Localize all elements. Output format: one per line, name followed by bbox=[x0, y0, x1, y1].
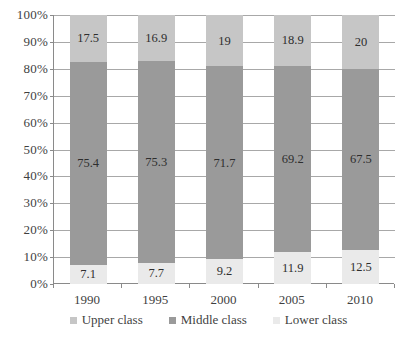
bar-column: 9.271.719 bbox=[206, 15, 243, 284]
bar-value-label: 75.3 bbox=[145, 156, 167, 169]
bar-segment: 11.9 bbox=[274, 252, 311, 284]
x-axis-tick-label: 2000 bbox=[194, 292, 254, 308]
bar-segment: 16.9 bbox=[138, 15, 175, 60]
bar-segment: 9.2 bbox=[206, 259, 243, 284]
legend-swatch-icon bbox=[273, 317, 280, 324]
chart-legend: Upper classMiddle classLower class bbox=[0, 312, 417, 328]
bar-segment: 18.9 bbox=[274, 15, 311, 66]
bar-segment: 75.3 bbox=[138, 61, 175, 264]
y-axis-tick-label: 60% bbox=[24, 115, 48, 131]
x-axis-tick bbox=[258, 284, 259, 288]
y-axis-tick-label: 70% bbox=[24, 88, 48, 104]
bar-segment: 17.5 bbox=[70, 15, 107, 62]
y-axis-tick-label: 40% bbox=[24, 168, 48, 184]
x-axis-tick-label: 2010 bbox=[330, 292, 390, 308]
bar-value-label: 11.9 bbox=[282, 262, 303, 275]
x-axis-tick bbox=[189, 284, 190, 288]
legend-item[interactable]: Upper class bbox=[70, 312, 143, 328]
bar-segment: 12.5 bbox=[342, 250, 379, 284]
bar-column: 11.969.218.9 bbox=[274, 15, 311, 284]
y-axis-tick-label: 80% bbox=[24, 61, 48, 77]
legend-swatch-icon bbox=[169, 317, 176, 324]
plot-area: 0%10%20%30%40%50%60%70%80%90%100% 7.175.… bbox=[53, 15, 394, 284]
bar-value-label: 17.5 bbox=[77, 32, 99, 45]
y-axis-tick-label: 90% bbox=[24, 34, 48, 50]
bar-value-label: 20 bbox=[355, 36, 368, 49]
bar-value-label: 75.4 bbox=[77, 157, 99, 170]
x-axis-tick bbox=[326, 284, 327, 288]
bar-segment: 71.7 bbox=[206, 66, 243, 259]
legend-label: Lower class bbox=[285, 312, 347, 328]
x-axis-tick-label: 1990 bbox=[57, 292, 117, 308]
bar-value-label: 7.1 bbox=[80, 268, 96, 281]
bar-segment: 75.4 bbox=[70, 62, 107, 265]
y-axis-tick-label: 20% bbox=[24, 222, 48, 238]
y-axis-tick-label: 0% bbox=[30, 276, 48, 292]
x-axis-tick bbox=[394, 284, 395, 288]
y-axis-tick-label: 50% bbox=[24, 142, 48, 158]
bar-segment: 67.5 bbox=[342, 69, 379, 251]
x-axis-tick bbox=[121, 284, 122, 288]
legend-item[interactable]: Lower class bbox=[273, 312, 347, 328]
legend-label: Middle class bbox=[181, 312, 247, 328]
bar-segment: 7.7 bbox=[138, 263, 175, 284]
stacked-bar-chart: 0%10%20%30%40%50%60%70%80%90%100% 7.175.… bbox=[0, 0, 417, 340]
bar-value-label: 16.9 bbox=[145, 32, 167, 45]
bar-value-label: 12.5 bbox=[350, 261, 372, 274]
x-axis-tick-label: 2005 bbox=[262, 292, 322, 308]
x-axis-tick bbox=[53, 284, 54, 288]
bar-column: 7.775.316.9 bbox=[138, 15, 175, 284]
x-axis-tick-label: 1995 bbox=[125, 292, 185, 308]
bar-value-label: 67.5 bbox=[350, 153, 372, 166]
bar-segment: 7.1 bbox=[70, 265, 107, 284]
bar-segment: 69.2 bbox=[274, 66, 311, 252]
bar-column: 12.567.520 bbox=[342, 15, 379, 284]
bar-column: 7.175.417.5 bbox=[70, 15, 107, 284]
bar-segment: 20 bbox=[342, 15, 379, 69]
bar-value-label: 71.7 bbox=[214, 157, 236, 170]
bar-value-label: 7.7 bbox=[148, 267, 164, 280]
legend-swatch-icon bbox=[70, 317, 77, 324]
bar-value-label: 18.9 bbox=[282, 34, 304, 47]
bars-layer: 7.175.417.57.775.316.99.271.71911.969.21… bbox=[54, 15, 395, 284]
bar-segment: 19 bbox=[206, 15, 243, 66]
y-axis-tick-label: 30% bbox=[24, 195, 48, 211]
y-axis-tick-label: 100% bbox=[17, 7, 48, 23]
legend-label: Upper class bbox=[82, 312, 143, 328]
bar-value-label: 69.2 bbox=[282, 153, 304, 166]
y-axis-tick-label: 10% bbox=[24, 249, 48, 265]
bar-value-label: 19 bbox=[218, 35, 231, 48]
bar-value-label: 9.2 bbox=[217, 265, 233, 278]
legend-item[interactable]: Middle class bbox=[169, 312, 247, 328]
